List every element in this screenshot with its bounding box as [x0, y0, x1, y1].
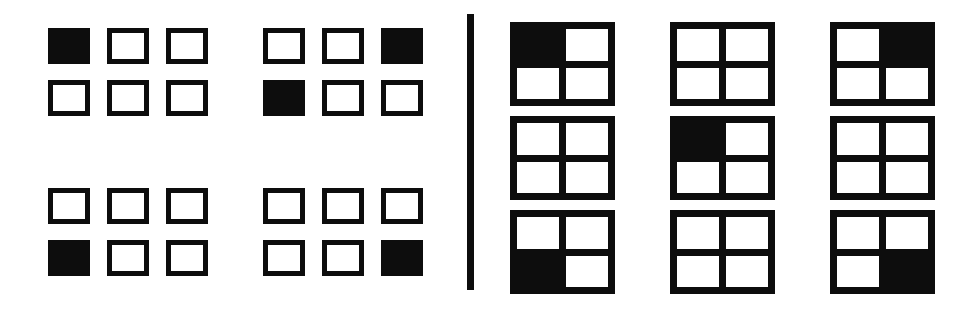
square-outline	[107, 28, 149, 64]
quad-cell-empty	[886, 162, 928, 194]
quad-r2c1	[510, 116, 615, 200]
quad-r1c3	[830, 22, 935, 106]
square-outline	[322, 188, 364, 224]
square-outline	[107, 188, 149, 224]
quad-cell-empty	[517, 162, 559, 194]
quad-cell-empty	[677, 162, 719, 194]
quad-r3c2	[670, 210, 775, 294]
quad-cell-empty	[726, 29, 768, 61]
quad-r1c2	[670, 22, 775, 106]
quad-cell-filled	[517, 29, 559, 61]
square-filled	[48, 240, 90, 276]
quad-cell-empty	[566, 162, 608, 194]
square-group-top-right	[263, 28, 423, 116]
quad-matrix	[510, 22, 935, 294]
quad-cell-empty	[886, 217, 928, 249]
square-outline	[263, 28, 305, 64]
square-outline	[322, 28, 364, 64]
quad-cell-filled	[677, 123, 719, 155]
square-group-top-left	[48, 28, 208, 116]
square-filled	[381, 28, 423, 64]
square-outline	[48, 80, 90, 116]
quad-cell-empty	[677, 29, 719, 61]
figure-root	[0, 0, 966, 314]
quad-cell-empty	[726, 217, 768, 249]
square-filled	[48, 28, 90, 64]
square-outline	[166, 188, 208, 224]
separated-squares-panel	[0, 0, 465, 314]
quad-cell-filled	[886, 29, 928, 61]
square-outline	[381, 188, 423, 224]
quad-r3c3	[830, 210, 935, 294]
quad-cell-empty	[566, 123, 608, 155]
quad-cell-empty	[837, 162, 879, 194]
square-outline	[322, 240, 364, 276]
quad-cell-empty	[566, 217, 608, 249]
quad-cell-empty	[566, 68, 608, 100]
square-outline	[166, 80, 208, 116]
square-outline	[166, 28, 208, 64]
square-outline	[107, 80, 149, 116]
quad-cell-empty	[726, 256, 768, 288]
quad-cell-filled	[517, 256, 559, 288]
square-outline	[48, 188, 90, 224]
quad-cell-empty	[726, 162, 768, 194]
square-outline	[263, 188, 305, 224]
quad-cell-empty	[837, 29, 879, 61]
quad-cell-empty	[837, 68, 879, 100]
quad-cell-filled	[886, 256, 928, 288]
quad-cell-empty	[677, 68, 719, 100]
quad-cell-empty	[566, 29, 608, 61]
quad-cell-empty	[517, 68, 559, 100]
square-outline	[381, 80, 423, 116]
square-filled	[381, 240, 423, 276]
quad-cell-empty	[837, 123, 879, 155]
quad-r2c3	[830, 116, 935, 200]
quad-cell-empty	[726, 123, 768, 155]
vertical-divider	[467, 14, 474, 290]
quad-cell-empty	[517, 217, 559, 249]
quad-cell-empty	[726, 68, 768, 100]
square-outline	[322, 80, 364, 116]
square-outline	[166, 240, 208, 276]
quad-cell-empty	[837, 256, 879, 288]
square-outline	[263, 240, 305, 276]
quad-cell-empty	[886, 68, 928, 100]
quad-cell-empty	[886, 123, 928, 155]
quad-cell-empty	[677, 256, 719, 288]
quad-cell-empty	[837, 217, 879, 249]
quad-cell-empty	[566, 256, 608, 288]
quad-grid-panel	[495, 0, 966, 314]
square-group-bottom-right	[263, 188, 423, 276]
quad-r3c1	[510, 210, 615, 294]
quad-r2c2	[670, 116, 775, 200]
square-group-bottom-left	[48, 188, 208, 276]
square-outline	[107, 240, 149, 276]
quad-r1c1	[510, 22, 615, 106]
quad-cell-empty	[517, 123, 559, 155]
square-filled	[263, 80, 305, 116]
quad-cell-empty	[677, 217, 719, 249]
